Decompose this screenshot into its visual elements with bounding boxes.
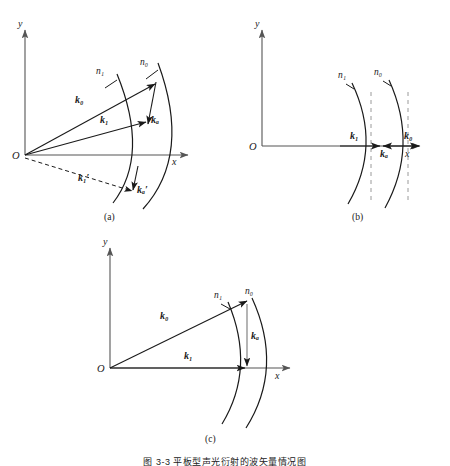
panel-b-arc-n1 [348, 83, 366, 204]
panel-a-arc-n1 [113, 74, 133, 203]
panel-c [110, 248, 290, 428]
figure-root: y x O n₁ n₀ k₀ k₁ kₐ k₁′ kₐ′ (a) y x O n… [0, 0, 450, 466]
panel-c-arc-n0-label: n₀ [245, 286, 253, 296]
panel-a-arc-n1-leader [105, 80, 117, 88]
panel-c-arc-n1-label: n₁ [214, 290, 222, 300]
panel-b-arc-n0 [385, 80, 403, 208]
panel-b-arc-n1-label: n₁ [338, 70, 346, 80]
panel-a-arc-n0-leader [146, 70, 158, 79]
panel-b-vector-ka-label: kₐ [380, 148, 388, 159]
panel-c-y-axis-label: y [103, 236, 107, 247]
panel-c-vector-k1-label: k₁ [184, 350, 193, 361]
panel-c-origin-label: O [97, 363, 105, 374]
panel-b-vector-k0-label: k₀ [404, 130, 413, 141]
panel-a-arc-n1-label: n₁ [96, 66, 104, 76]
panel-a-origin-label: O [12, 150, 20, 161]
panel-b-vector-k1-label: k₁ [350, 130, 359, 141]
panel-c-caption: (c) [205, 434, 216, 444]
panel-b-origin-label: O [249, 141, 257, 152]
panel-c-arc-n1 [222, 302, 241, 424]
panel-a-vector-k0-label: k₀ [75, 94, 84, 105]
panel-c-x-axis-label: x [275, 370, 279, 381]
panel-a-vector-k1 [25, 122, 146, 155]
panel-a-y-axis-label: y [18, 18, 22, 29]
panel-a-vector-k0 [25, 84, 155, 155]
panel-b-x-axis-label: x [405, 148, 409, 159]
panel-a-vector-ka-prime-label: kₐ′ [137, 184, 148, 195]
panel-a-vector-k1-label: k₁ [100, 114, 109, 125]
panel-b [262, 30, 420, 208]
panel-a-x-axis-label: x [172, 156, 176, 167]
panel-b-caption: (b) [352, 212, 363, 222]
figure-canvas [0, 0, 450, 466]
panel-c-vector-ka-label: kₐ [251, 330, 259, 341]
panel-c-vector-k0 [110, 301, 247, 368]
panel-c-arc-n0 [246, 298, 267, 428]
panel-c-vector-k0-label: k₀ [160, 310, 169, 321]
panel-a-vector-k1-prime-label: k₁′ [78, 172, 89, 183]
panel-a-vector-ka-label: kₐ [151, 114, 159, 125]
panel-b-arc-n0-label: n₀ [374, 67, 382, 77]
figure-caption: 图 3-3 平板型声光衍射的波矢量情况图 [0, 455, 450, 466]
panel-a-arc-n0-label: n₀ [140, 57, 148, 67]
panel-b-y-axis-label: y [255, 18, 259, 29]
panel-a-caption: (a) [104, 212, 115, 222]
